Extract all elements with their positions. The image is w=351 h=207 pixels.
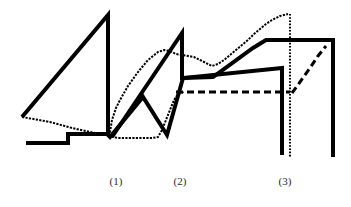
annotation-label-2: (2) bbox=[160, 176, 200, 187]
chart-container: (1) (2) (3) bbox=[0, 0, 351, 207]
annotation-label-1: (1) bbox=[96, 176, 136, 187]
annotation-label-3: (3) bbox=[265, 176, 305, 187]
